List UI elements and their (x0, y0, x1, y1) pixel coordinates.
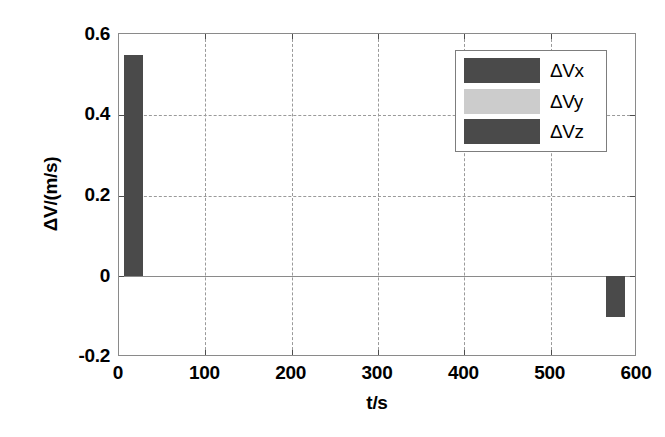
xtick-500-top (551, 34, 552, 39)
xtick-200-top (292, 34, 293, 39)
xtick-100-bottom (205, 350, 206, 355)
gridline-vertical-100 (205, 34, 206, 355)
xticklabel-500: 500 (534, 362, 565, 384)
legend-item-dVy: ΔVy (464, 88, 598, 115)
gridline-vertical-300 (378, 34, 379, 355)
xticklabel-0: 0 (113, 362, 123, 384)
chart-legend: ΔVx ΔVy ΔVz (455, 50, 607, 152)
bar-dVx (124, 55, 143, 276)
legend-item-dVz: ΔVz (464, 118, 598, 145)
legend-label-dVy: ΔVy (550, 92, 583, 111)
x-axis-label: t/s (118, 392, 636, 414)
ytick-0-right (630, 276, 635, 277)
yticklabel-0.2: 0.2 (84, 184, 110, 206)
ytick-0.4-right (630, 115, 635, 116)
legend-label-dVx: ΔVx (550, 61, 584, 80)
ytick-0.4-left (119, 115, 124, 116)
legend-item-dVx: ΔVx (464, 57, 598, 84)
legend-swatch-dVx (464, 58, 540, 83)
legend-swatch-dVz (464, 119, 540, 144)
y-axis-label: ΔV/(m/s) (40, 157, 62, 232)
yticklabel-0: 0 (100, 265, 110, 287)
bar-chart-figure: ΔVx ΔVy ΔVz 0 100 200 300 400 500 600 0.… (0, 0, 665, 437)
yticklabel--0.2: -0.2 (78, 345, 110, 367)
xtick-200-bottom (292, 350, 293, 355)
xticklabel-100: 100 (189, 362, 220, 384)
bar-dVz (606, 276, 625, 317)
yticklabel-0.6: 0.6 (84, 23, 110, 45)
xtick-100-top (205, 34, 206, 39)
yticklabel-0.4: 0.4 (84, 103, 110, 125)
xtick-400-top (464, 34, 465, 39)
legend-swatch-dVy (464, 89, 540, 114)
xtick-400-bottom (464, 350, 465, 355)
ytick-0.2-left (119, 196, 124, 197)
gridline-vertical-200 (292, 34, 293, 355)
gridline-horizontal-0.2 (119, 196, 635, 197)
xtick-500-bottom (551, 350, 552, 355)
xtick-300-bottom (378, 350, 379, 355)
ytick-0.2-right (630, 196, 635, 197)
xticklabel-300: 300 (362, 362, 393, 384)
xticklabel-200: 200 (275, 362, 306, 384)
gridline-horizontal-zero (119, 276, 635, 277)
xtick-300-top (378, 34, 379, 39)
xticklabel-400: 400 (448, 362, 479, 384)
ytick-0-left (119, 276, 124, 277)
xticklabel-600: 600 (621, 362, 652, 384)
legend-label-dVz: ΔVz (550, 122, 584, 141)
